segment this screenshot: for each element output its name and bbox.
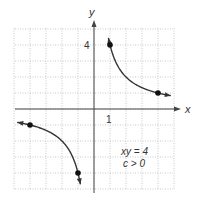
y-axis — [92, 20, 97, 193]
data-point — [27, 122, 33, 128]
x-axis — [15, 107, 181, 112]
data-point — [107, 42, 113, 48]
y-tick-4: 4 — [84, 40, 90, 51]
hyperbola-plot: y x 1 4 xy = 4 c > 0 — [0, 0, 200, 201]
x-axis-label: x — [184, 103, 191, 115]
data-point — [75, 170, 81, 176]
condition-label: c > 0 — [123, 158, 145, 169]
x-tick-1: 1 — [106, 114, 112, 125]
data-point — [155, 90, 161, 96]
y-axis-label: y — [88, 6, 96, 18]
equation-label: xy = 4 — [120, 146, 148, 157]
